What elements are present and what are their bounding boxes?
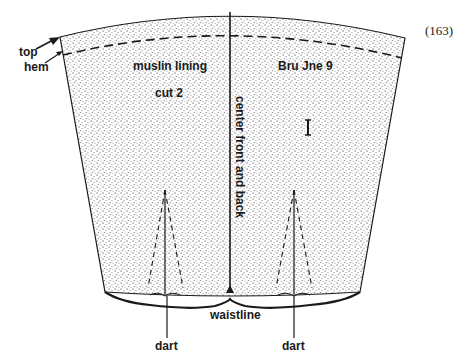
figure-number: (163) bbox=[425, 23, 453, 38]
label-center: center front and back bbox=[233, 96, 247, 218]
label-muslin-lining: muslin lining bbox=[133, 59, 207, 73]
label-dart-right: dart bbox=[282, 339, 305, 353]
label-top: top bbox=[19, 45, 38, 59]
label-cut: cut 2 bbox=[155, 86, 183, 100]
label-dart-left: dart bbox=[155, 339, 178, 353]
label-waistline: waistline bbox=[209, 308, 261, 322]
label-hem: hem bbox=[24, 60, 49, 74]
pattern-diagram: top hem muslin lining cut 2 Bru Jne 9 ce… bbox=[0, 0, 470, 360]
skirt-pattern-piece bbox=[60, 16, 405, 296]
top-arrow-icon bbox=[36, 37, 60, 49]
label-code: Bru Jne 9 bbox=[278, 59, 333, 73]
